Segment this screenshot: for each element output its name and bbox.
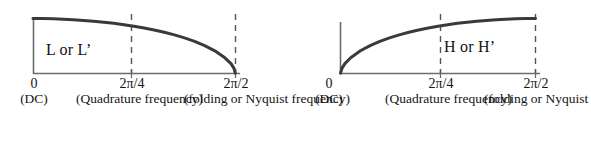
highpass-curve-label: H or H’ <box>444 38 495 56</box>
lowpass-curve-label: L or L’ <box>46 41 92 59</box>
x-tick-label-quadrature: 2π/4 (Quadrature frequency) <box>76 76 188 107</box>
x-tick-label-dc: 0 (DC) <box>12 76 56 107</box>
x-tick-sublabel-1: (Quadrature frequency) <box>385 92 497 107</box>
x-tick-sublabel-2: (folding or Nyquist frequency) <box>184 92 288 107</box>
x-tick-value-1: 2π/4 <box>76 76 188 91</box>
x-tick-label-nyquist: 2π/2 (folding or Nyquist frequency) <box>484 76 588 107</box>
x-tick-label-quadrature: 2π/4 (Quadrature frequency) <box>385 76 497 107</box>
x-tick-sublabel-1: (Quadrature frequency) <box>76 92 188 107</box>
x-tick-value-2: 2π/2 <box>184 76 288 91</box>
highpass-response-panel: H or H’ 0 (DC) 2π/4 (Quadrature frequenc… <box>295 0 591 150</box>
highpass-curve <box>341 19 536 74</box>
lowpass-plot-svg <box>0 0 296 150</box>
x-tick-sublabel-2: (folding or Nyquist frequency) <box>484 92 588 107</box>
x-tick-label-dc: 0 (DC) <box>307 76 351 107</box>
x-tick-value-1: 2π/4 <box>385 76 497 91</box>
lowpass-response-panel: L or L’ 0 (DC) 2π/4 (Quadrature frequenc… <box>0 0 296 150</box>
x-tick-value-0: 0 <box>12 76 56 91</box>
highpass-plot-svg <box>295 0 591 150</box>
x-tick-value-2: 2π/2 <box>484 76 588 91</box>
x-tick-sublabel-0: (DC) <box>12 92 56 107</box>
x-tick-label-nyquist: 2π/2 (folding or Nyquist frequency) <box>184 76 288 107</box>
x-tick-value-0: 0 <box>307 76 351 91</box>
x-tick-sublabel-0: (DC) <box>307 92 351 107</box>
